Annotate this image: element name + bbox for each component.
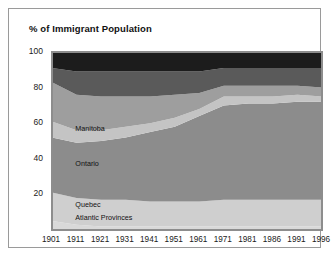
y-tick-label: 100 <box>17 46 43 56</box>
chart-frame: % of Immigrant Population ManitobaOntari… <box>8 8 321 248</box>
chart-title: % of Immigrant Population <box>29 23 152 34</box>
series-label-manitoba: Manitoba <box>75 124 105 133</box>
y-tick-label: 60 <box>17 117 43 127</box>
x-tick-label: 1996 <box>306 235 331 244</box>
series-label-ontario: Ontario <box>75 159 99 168</box>
series-label-quebec: Quebec <box>75 200 100 209</box>
series-label-atlantic-provinces: Atlantic Provinces <box>75 213 132 222</box>
y-tick-label: 40 <box>17 153 43 163</box>
y-tick-label: 20 <box>17 188 43 198</box>
plot-wrapper: ManitobaOntarioQuebecAtlantic Provinces <box>51 51 321 229</box>
y-tick-label: 80 <box>17 82 43 92</box>
